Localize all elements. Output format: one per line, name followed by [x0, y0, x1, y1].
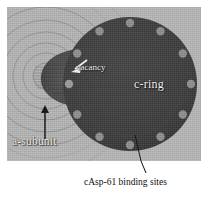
- figure-root: vacancy c-ring a-subunit cAsp-61 binding…: [0, 0, 215, 198]
- binding-sites-leader-outside: [141, 161, 146, 173]
- label-casp61-binding-sites: cAsp-61 binding sites: [84, 178, 167, 188]
- label-c-ring: c-ring: [134, 78, 164, 90]
- label-vacancy: vacancy: [76, 63, 105, 72]
- outside-leader-svg: [0, 0, 215, 198]
- label-a-subunit: a-subunit: [12, 136, 57, 148]
